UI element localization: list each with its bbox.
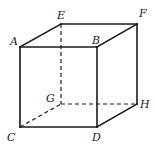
edge-BF	[97, 24, 137, 47]
vertex-label-F: F	[138, 7, 147, 20]
edge-DH	[97, 104, 137, 127]
vertex-label-B: B	[91, 34, 100, 47]
edge-CG	[20, 104, 61, 127]
vertex-label-D: D	[91, 131, 101, 144]
edge-AE	[20, 24, 61, 47]
vertex-label-G: G	[46, 92, 55, 105]
vertex-label-A: A	[9, 35, 18, 48]
cube-diagram: A E B F G H C D	[0, 0, 155, 147]
vertex-label-H: H	[139, 98, 150, 111]
vertex-label-E: E	[56, 9, 65, 22]
vertex-label-C: C	[7, 131, 16, 144]
